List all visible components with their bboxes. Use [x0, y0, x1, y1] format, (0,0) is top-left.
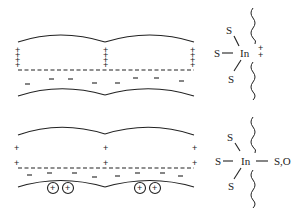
charge-plus-2: + — [258, 50, 263, 60]
wavy-bond-upper — [251, 8, 256, 44]
svg-text:+: + — [103, 143, 108, 153]
svg-text:+: + — [190, 60, 195, 70]
svg-text:+: + — [103, 60, 108, 70]
bottom-upper-arc-left — [18, 127, 105, 135]
bottom-lower-arc-left — [18, 181, 105, 188]
top-layer-structure: + + + + + + + + + + + + — [15, 35, 195, 96]
bottom-layer-structure: + + + + + + + + + + — [14, 127, 197, 193]
svg-text:+: + — [192, 158, 197, 168]
ligand-s-bottom: S — [228, 180, 234, 192]
ligand-s-o-right: S,O — [274, 155, 291, 167]
bond-bottom — [234, 168, 241, 179]
bond-top — [234, 36, 239, 46]
top-chemical-structure: S S In S + + — [214, 8, 263, 100]
ligand-s-top: S — [226, 24, 232, 36]
ligand-s-left: S — [215, 155, 221, 167]
top-upper-arc-right — [105, 35, 194, 42]
top-plus-column-left: + + + + — [15, 45, 20, 70]
wavy-bond-lower — [251, 170, 255, 208]
top-upper-arc-left — [18, 35, 105, 42]
wavy-bond-upper — [251, 117, 256, 153]
center-atom-in: In — [241, 155, 251, 167]
top-lower-arc-left — [18, 89, 105, 96]
center-atom-in: In — [240, 47, 250, 59]
top-lower-arc-right — [105, 89, 194, 96]
svg-text:+: + — [15, 60, 20, 70]
svg-text:+: + — [137, 183, 142, 193]
svg-text:+: + — [192, 143, 197, 153]
svg-text:+: + — [152, 183, 157, 193]
svg-text:+: + — [14, 158, 19, 168]
ligand-s-bottom: S — [228, 73, 234, 85]
bond-top — [235, 143, 240, 151]
bottom-upper-arc-right — [105, 127, 194, 135]
ligand-s-left: S — [214, 47, 220, 59]
svg-text:+: + — [14, 143, 19, 153]
wavy-bond-lower — [251, 62, 255, 100]
top-minus-signs — [25, 78, 184, 84]
top-plus-column-middle: + + + + — [103, 45, 108, 70]
svg-text:+: + — [65, 183, 70, 193]
bottom-minus-signs — [27, 173, 183, 177]
svg-text:+: + — [50, 183, 55, 193]
bottom-plus-signs: + + + + + + — [14, 143, 197, 168]
circled-cations: + + + + — [48, 183, 161, 194]
top-plus-column-right: + + + + — [190, 45, 195, 70]
bond-bottom — [234, 60, 241, 71]
svg-text:+: + — [103, 158, 108, 168]
diagram-canvas: + + + + + + + + + + + + — [0, 0, 300, 220]
ligand-s-top: S — [227, 131, 233, 143]
bottom-chemical-structure: S S In S,O S — [215, 117, 291, 208]
